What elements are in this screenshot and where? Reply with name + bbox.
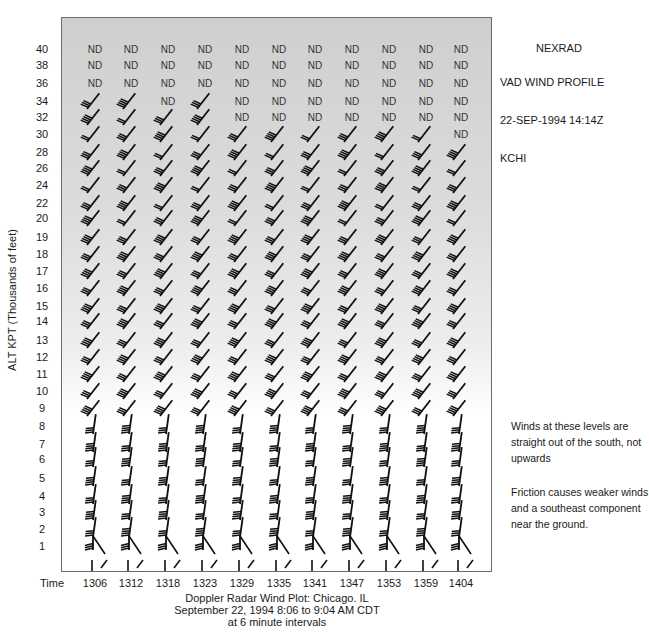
- x-tick-label: 1347: [340, 577, 364, 589]
- no-data-label: ND: [272, 112, 286, 123]
- no-data-label: ND: [198, 78, 212, 89]
- y-tick-label: 20: [30, 212, 54, 224]
- x-tick-label: 1329: [230, 577, 254, 589]
- no-data-label: ND: [308, 44, 322, 55]
- x-tick-label: 1404: [449, 577, 473, 589]
- y-tick-label: 3: [30, 506, 54, 518]
- no-data-label: ND: [235, 78, 249, 89]
- no-data-label: ND: [235, 60, 249, 71]
- no-data-label: ND: [198, 60, 212, 71]
- no-data-label: ND: [454, 112, 468, 123]
- y-tick-label: 2: [30, 523, 54, 535]
- no-data-label: ND: [345, 44, 359, 55]
- no-data-label: ND: [454, 60, 468, 71]
- y-tick-label: 38: [30, 59, 54, 71]
- no-data-label: ND: [345, 112, 359, 123]
- x-tick-label: 1323: [193, 577, 217, 589]
- no-data-label: ND: [308, 96, 322, 107]
- y-tick-label: 26: [30, 162, 54, 174]
- no-data-label: ND: [88, 60, 102, 71]
- caption-line-2: September 22, 1994 8:06 to 9:04 AM CDT: [147, 604, 407, 616]
- x-tick-label: 1353: [377, 577, 401, 589]
- y-tick-label: 15: [30, 300, 54, 312]
- no-data-label: ND: [382, 78, 396, 89]
- no-data-label: ND: [272, 96, 286, 107]
- no-data-label: ND: [308, 60, 322, 71]
- no-data-label: ND: [419, 60, 433, 71]
- y-tick-label: 22: [30, 197, 54, 209]
- y-tick-label: 10: [30, 385, 54, 397]
- station-id: KCHI: [500, 152, 526, 164]
- no-data-label: ND: [272, 44, 286, 55]
- x-tick-label: 1318: [156, 577, 180, 589]
- y-tick-label: 9: [30, 402, 54, 414]
- y-tick-label: 19: [30, 231, 54, 243]
- y-tick-label: 32: [30, 111, 54, 123]
- no-data-label: ND: [124, 78, 138, 89]
- no-data-label: ND: [124, 60, 138, 71]
- no-data-label: ND: [161, 44, 175, 55]
- no-data-label: ND: [345, 78, 359, 89]
- y-tick-label: 12: [30, 351, 54, 363]
- no-data-label: ND: [419, 78, 433, 89]
- no-data-label: ND: [454, 129, 468, 140]
- no-data-label: ND: [235, 96, 249, 107]
- x-axis-label: Time: [40, 577, 64, 589]
- y-tick-label: 11: [30, 368, 54, 380]
- y-tick-label: 17: [30, 265, 54, 277]
- y-tick-label: 18: [30, 248, 54, 260]
- no-data-label: ND: [382, 96, 396, 107]
- no-data-label: ND: [382, 44, 396, 55]
- y-tick-label: 7: [30, 438, 54, 450]
- no-data-label: ND: [454, 78, 468, 89]
- x-tick-label: 1359: [414, 577, 438, 589]
- y-tick-label: 4: [30, 490, 54, 502]
- chart-datetime: 22-SEP-1994 14:14Z: [500, 114, 603, 126]
- y-tick-label: 36: [30, 77, 54, 89]
- chart-title: NEXRAD: [536, 42, 582, 54]
- y-tick-label: 16: [30, 282, 54, 294]
- y-tick-label: 34: [30, 95, 54, 107]
- caption-line-3: at 6 minute intervals: [147, 616, 407, 628]
- y-tick-label: 5: [30, 472, 54, 484]
- no-data-label: ND: [88, 44, 102, 55]
- x-tick-label: 1312: [119, 577, 143, 589]
- no-data-label: ND: [419, 112, 433, 123]
- no-data-label: ND: [235, 112, 249, 123]
- x-tick-label: 1335: [267, 577, 291, 589]
- caption-line-1: Doppler Radar Wind Plot: Chicago. IL: [147, 592, 407, 604]
- no-data-label: ND: [161, 78, 175, 89]
- no-data-label: ND: [419, 96, 433, 107]
- no-data-label: ND: [308, 78, 322, 89]
- no-data-label: ND: [272, 78, 286, 89]
- y-tick-label: 6: [30, 453, 54, 465]
- x-tick-label: 1341: [303, 577, 327, 589]
- no-data-label: ND: [161, 60, 175, 71]
- y-tick-label: 13: [30, 334, 54, 346]
- no-data-label: ND: [345, 60, 359, 71]
- no-data-label: ND: [345, 96, 359, 107]
- y-tick-label: 8: [30, 420, 54, 432]
- annotation-south-winds: Winds at these levels are straight out o…: [511, 418, 649, 466]
- no-data-label: ND: [382, 60, 396, 71]
- no-data-label: ND: [382, 112, 396, 123]
- no-data-label: ND: [88, 78, 102, 89]
- y-tick-label: 28: [30, 146, 54, 158]
- y-tick-label: 1: [30, 540, 54, 552]
- y-tick-label: 24: [30, 179, 54, 191]
- y-axis-label: ALT KPT (Thousands of feet): [6, 229, 18, 371]
- annotation-friction: Friction causes weaker winds and a south…: [511, 484, 649, 532]
- no-data-label: ND: [198, 44, 212, 55]
- no-data-label: ND: [308, 112, 322, 123]
- y-tick-label: 14: [30, 315, 54, 327]
- no-data-label: ND: [161, 96, 175, 107]
- no-data-label: ND: [454, 44, 468, 55]
- no-data-label: ND: [419, 44, 433, 55]
- chart-subtitle: VAD WIND PROFILE: [500, 76, 604, 88]
- no-data-label: ND: [235, 44, 249, 55]
- x-tick-label: 1306: [83, 577, 107, 589]
- no-data-label: ND: [454, 96, 468, 107]
- figure-caption: Doppler Radar Wind Plot: Chicago. IL Sep…: [147, 592, 407, 628]
- no-data-label: ND: [124, 44, 138, 55]
- y-tick-label: 30: [30, 128, 54, 140]
